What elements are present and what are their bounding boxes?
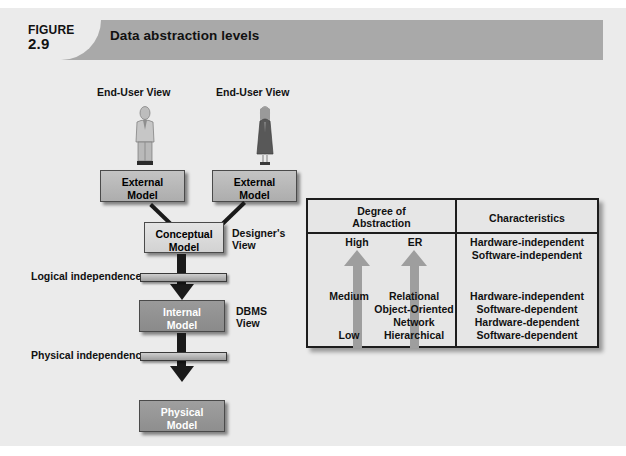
characteristics-high-line1: Hardware-independent <box>457 236 597 249</box>
figure-number: 2.9 <box>28 37 104 51</box>
person-icon <box>253 106 277 168</box>
model-relational: Relational <box>374 290 454 303</box>
characteristics-low-line2: Software-dependent <box>457 329 597 342</box>
abstraction-table: Degree of Abstraction Characteristics Hi… <box>306 198 599 348</box>
physical-line2: Model <box>140 419 224 432</box>
models-medium: Relational Object-Oriented <box>374 290 454 316</box>
external-model-left-line2: Model <box>101 189 184 202</box>
arrow-head-conceptual-internal <box>170 284 194 300</box>
external-model-right-line2: Model <box>213 189 296 202</box>
dbms-view-label: DBMS View <box>236 305 267 329</box>
internal-model-box: Internal Model <box>139 300 225 332</box>
figure-title: Data abstraction levels <box>110 28 259 43</box>
degree-line1: Degree of <box>308 205 455 217</box>
degree-line2: Abstraction <box>308 217 455 229</box>
characteristics-high-line2: Software-independent <box>457 249 597 262</box>
model-object-oriented: Object-Oriented <box>374 303 454 316</box>
characteristics-high: Hardware-independent Software-independen… <box>457 236 597 262</box>
model-er: ER <box>384 236 446 249</box>
dbms-view-line1: DBMS <box>236 305 267 317</box>
level-low: Low <box>318 329 380 342</box>
figure-panel: FIGURE 2.9 Data abstraction levels End-U… <box>0 8 626 446</box>
model-network: Network <box>374 316 454 329</box>
designers-view-label: Designer's View <box>232 227 285 251</box>
physical-independence-bar <box>140 352 227 361</box>
logical-independence-label: Logical independence <box>31 270 141 282</box>
column-header-characteristics: Characteristics <box>457 212 597 224</box>
physical-model-box: Physical Model <box>139 400 225 432</box>
model-hierarchical: Hierarchical <box>374 329 454 342</box>
dbms-view-line2: View <box>236 317 267 329</box>
external-model-right-line1: External <box>213 176 296 189</box>
column-header-degree: Degree of Abstraction <box>308 205 455 229</box>
characteristics-medium-line2: Software-dependent <box>457 303 597 316</box>
external-model-box-right: External Model <box>212 170 297 202</box>
characteristics-low: Hardware-dependent Software-dependent <box>457 316 597 342</box>
figure-number-label: FIGURE 2.9 <box>28 23 104 51</box>
characteristics-medium: Hardware-independent Software-dependent <box>457 290 597 316</box>
business-woman-figure <box>253 106 277 168</box>
designers-view-line2: View <box>232 239 285 251</box>
level-medium: Medium <box>318 290 380 303</box>
label-enduser-view-right: End-User View <box>216 86 289 98</box>
business-man-figure <box>132 106 158 166</box>
conceptual-line1: Conceptual <box>145 228 223 241</box>
internal-line2: Model <box>140 319 224 332</box>
level-high: High <box>326 236 388 249</box>
internal-line1: Internal <box>140 306 224 319</box>
external-model-box-left: External Model <box>100 170 185 202</box>
external-model-left-line1: External <box>101 176 184 189</box>
conceptual-model-box: Conceptual Model <box>144 222 224 253</box>
label-enduser-view-left: End-User View <box>97 86 170 98</box>
characteristics-low-line1: Hardware-dependent <box>457 316 597 329</box>
models-low: Network Hierarchical <box>374 316 454 342</box>
conceptual-line2: Model <box>145 241 223 254</box>
person-icon <box>132 106 158 166</box>
physical-line1: Physical <box>140 406 224 419</box>
physical-independence-label: Physical independence <box>31 349 147 361</box>
designers-view-line1: Designer's <box>232 227 285 239</box>
logical-independence-bar <box>140 273 227 282</box>
arrow-head-internal-physical <box>170 366 194 382</box>
characteristics-medium-line1: Hardware-independent <box>457 290 597 303</box>
